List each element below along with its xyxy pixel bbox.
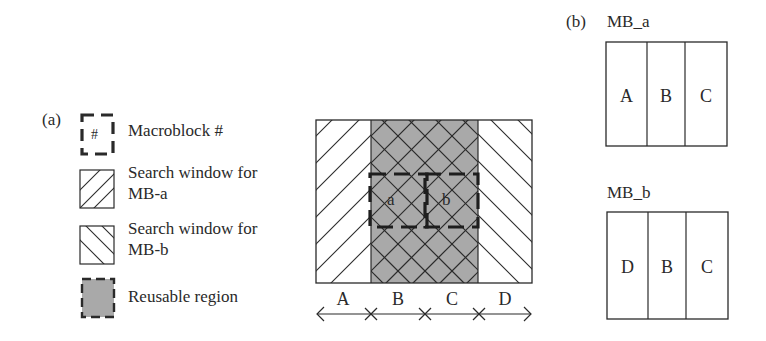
mb-b-cell-3: C	[686, 257, 728, 278]
mb-b-cells-graphic	[0, 0, 766, 341]
mb-b-cell-1: D	[607, 257, 648, 278]
mb-b-cell-2: B	[648, 257, 686, 278]
